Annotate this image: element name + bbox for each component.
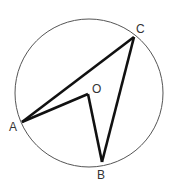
segment-AC (22, 37, 134, 122)
label-O: O (92, 82, 101, 96)
label-C: C (136, 22, 145, 36)
segment-BO (88, 94, 102, 162)
circle-outline (15, 19, 163, 167)
circle-diagram: A C O B (0, 0, 173, 186)
label-A: A (9, 120, 17, 134)
label-B: B (97, 168, 105, 182)
quadrilateral-ACBO (22, 37, 134, 162)
segment-CB (102, 37, 134, 162)
